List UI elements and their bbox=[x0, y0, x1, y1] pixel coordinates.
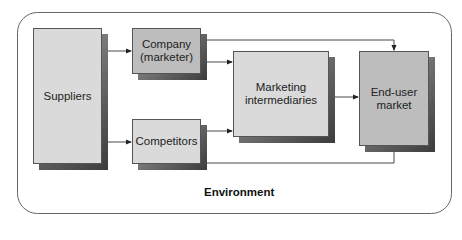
node-end-user: End-user market bbox=[359, 51, 429, 146]
node-company-line2: (marketer) bbox=[140, 51, 193, 64]
node-intermediaries-line1: Marketing bbox=[256, 81, 307, 94]
node-suppliers: Suppliers bbox=[33, 28, 102, 164]
node-competitors: Competitors bbox=[132, 119, 201, 164]
edge-company-enduser bbox=[207, 40, 394, 50]
node-intermediaries: Marketing intermediaries bbox=[233, 51, 329, 137]
node-suppliers-label: Suppliers bbox=[44, 90, 92, 103]
node-intermediaries-line2: intermediaries bbox=[245, 94, 317, 107]
node-enduser-line1: End-user bbox=[371, 86, 418, 99]
environment-label: Environment bbox=[204, 186, 274, 198]
node-competitors-label: Competitors bbox=[136, 135, 198, 148]
node-enduser-line2: market bbox=[376, 99, 411, 112]
node-company-line1: Company bbox=[142, 38, 191, 51]
node-company: Company (marketer) bbox=[132, 28, 201, 74]
